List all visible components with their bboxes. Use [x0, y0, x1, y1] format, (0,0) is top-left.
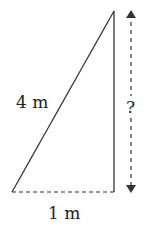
base-label: 1 m	[48, 203, 80, 223]
triangle-diagram: 4 m ? 1 m	[0, 0, 152, 229]
hypotenuse-label: 4 m	[16, 92, 48, 112]
height-label: ?	[126, 97, 135, 117]
